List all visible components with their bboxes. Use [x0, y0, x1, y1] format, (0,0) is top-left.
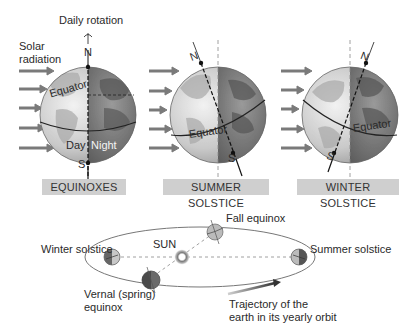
daily-rotation-label: Daily rotation: [59, 14, 123, 26]
earth-summer-solstice: [291, 249, 307, 265]
globe-summer-solstice: [170, 40, 278, 190]
south-pole-label-equinox: S: [78, 158, 85, 170]
day-label: Day: [66, 139, 86, 151]
trajectory-label-line2: earth in its yearly orbit: [229, 311, 337, 323]
summer-solstice-label: Summer solstice: [310, 243, 391, 255]
fall-equinox-label: Fall equinox: [226, 212, 285, 224]
earth-fall-equinox: [207, 220, 223, 244]
diagram-graphics: [0, 0, 413, 334]
vernal-equinox-label-line2: equinox: [84, 301, 123, 313]
caption-winter-solstice: WINTER SOLSTICE: [297, 179, 399, 195]
caption-equinoxes: EQUINOXES: [42, 179, 126, 195]
night-label: Night: [91, 139, 117, 151]
north-pole-label-equinox: N: [84, 46, 92, 58]
south-pole-label-summer: S: [228, 152, 235, 164]
solar-radiation-label-line1: Solar: [19, 40, 45, 52]
globe-winter-solstice: [302, 40, 410, 190]
caption-summer-solstice: SUMMER SOLSTICE: [163, 179, 269, 195]
vernal-equinox-label-line1: Vernal (spring): [84, 288, 156, 300]
orbit: [85, 220, 315, 294]
trajectory-label-line1: Trajectory of the: [229, 298, 308, 310]
sun-label: SUN: [153, 238, 176, 250]
winter-solstice-label: Winter solstice: [41, 243, 113, 255]
solar-radiation-label-line2: radiation: [19, 53, 61, 65]
